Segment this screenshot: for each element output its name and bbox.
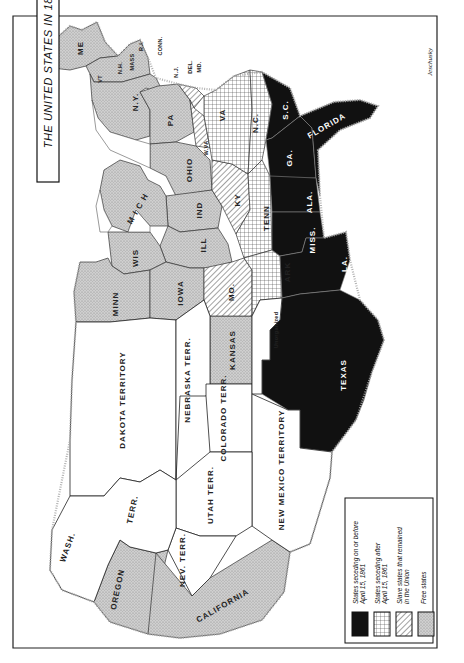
region-ill	[160, 226, 232, 268]
legend-swatch-free	[418, 612, 434, 636]
label-nj: N.J.	[173, 66, 179, 77]
label-utah: UTAH TERR.	[206, 466, 215, 524]
label-ri: R.I.	[138, 41, 144, 51]
label-me: ME	[76, 41, 85, 55]
label-ohio: OHIO	[185, 158, 194, 182]
map-canvas: THE UNITED STATES IN 1861 Jeschusky ME N…	[0, 0, 464, 663]
label-colorado: COLORADO TERR.	[219, 375, 228, 462]
label-mo: MO.	[227, 283, 236, 301]
legend-label-3b: in the Union	[403, 569, 410, 604]
label-ny: N.Y.	[131, 93, 140, 112]
label-ark: ARK	[283, 262, 292, 282]
region-va	[204, 70, 252, 174]
label-miss: MISS.	[308, 227, 317, 254]
label-conn: CONN.	[157, 36, 163, 55]
label-wis: WIS	[131, 249, 140, 267]
title-box: THE UNITED STATES IN 1861	[37, 0, 59, 182]
label-pa: PA	[166, 114, 175, 127]
label-md: MD.	[196, 61, 202, 72]
label-tenn: TENN	[262, 205, 271, 231]
label-la: LA.	[340, 256, 349, 272]
label-va: VA	[218, 109, 227, 122]
legend-label-2b: April 15, 1861	[381, 564, 389, 605]
label-iowa: IOWA	[176, 280, 185, 305]
legend-label-4a: Free states	[420, 571, 427, 604]
label-unorganized: Unorganized	[273, 312, 279, 349]
label-nebraska: NEBRASKA TERR.	[183, 337, 192, 422]
cartographer-signature: Jeschusky	[426, 47, 434, 76]
label-vt: VT	[97, 75, 103, 83]
label-dakota: DAKOTA TERRITORY	[118, 351, 127, 448]
region-colorado	[206, 384, 252, 452]
legend-swatch-slave-union	[396, 612, 412, 636]
legend-label-1b: April 15, 1861	[359, 564, 367, 605]
label-mass: MASS	[129, 53, 135, 70]
label-ga: GA.	[285, 149, 294, 166]
label-sc: S.C.	[281, 100, 290, 120]
label-nc: N.C.	[251, 113, 260, 133]
label-ala: ALA.	[305, 191, 314, 214]
legend-swatch-seceded-after	[374, 612, 390, 636]
region-ind	[166, 190, 222, 232]
label-nh: N.H.	[117, 62, 123, 74]
label-ind: IND	[195, 202, 204, 219]
label-ky: KY	[233, 193, 242, 206]
legend: States seceding on or before April 15, 1…	[345, 498, 434, 643]
label-ill: ILL	[199, 238, 208, 253]
label-minn: MINN	[111, 292, 120, 316]
label-kansas: KANSAS	[228, 330, 237, 370]
label-texas: TEXAS	[339, 359, 348, 391]
region-nebraska	[176, 300, 210, 480]
label-nev: NEV. TERR.	[178, 533, 187, 587]
label-del: DEL.	[187, 60, 193, 74]
legend-swatch-seceded-before	[352, 612, 368, 636]
label-wva: W.VA	[203, 141, 209, 156]
legend-label-3a: Slave states that remained	[396, 527, 403, 604]
map-title: THE UNITED STATES IN 1861	[42, 0, 54, 148]
label-newmexico: NEW MEXICO TERRITORY	[277, 410, 286, 530]
